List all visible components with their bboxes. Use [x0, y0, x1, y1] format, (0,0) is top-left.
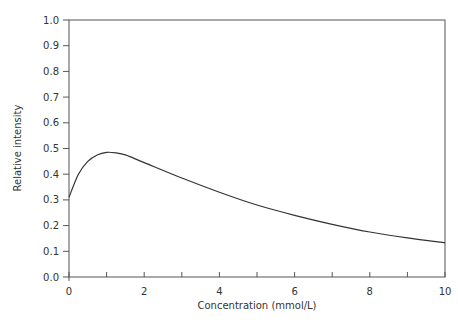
y-axis-ticks: 0.00.10.20.30.40.50.60.70.80.91.0 — [43, 15, 69, 283]
plot-border — [69, 20, 445, 277]
y-tick-label: 0.4 — [43, 169, 59, 180]
data-line — [69, 152, 445, 243]
line-chart: 0.00.10.20.30.40.50.60.70.80.91.0 024681… — [0, 0, 458, 327]
y-tick-label: 0.9 — [43, 40, 59, 51]
x-tick-label: 4 — [216, 286, 222, 297]
y-tick-label: 0.0 — [43, 272, 59, 283]
y-tick-label: 0.6 — [43, 117, 59, 128]
plot-frame — [69, 20, 445, 277]
y-tick-label: 0.7 — [43, 92, 59, 103]
x-tick-label: 2 — [141, 286, 147, 297]
y-axis-label: Relative intensity — [12, 104, 23, 191]
x-tick-label: 0 — [66, 286, 72, 297]
y-tick-label: 0.8 — [43, 66, 59, 77]
y-tick-label: 0.5 — [43, 143, 59, 154]
y-tick-label: 1.0 — [43, 15, 59, 26]
x-tick-label: 8 — [367, 286, 373, 297]
x-axis-label: Concentration (mmol/L) — [197, 300, 316, 311]
y-tick-label: 0.3 — [43, 194, 59, 205]
y-tick-label: 0.1 — [43, 246, 59, 257]
x-tick-label: 6 — [291, 286, 297, 297]
x-tick-label: 10 — [439, 286, 452, 297]
y-tick-label: 0.2 — [43, 220, 59, 231]
x-axis-ticks: 0246810 — [66, 272, 452, 297]
